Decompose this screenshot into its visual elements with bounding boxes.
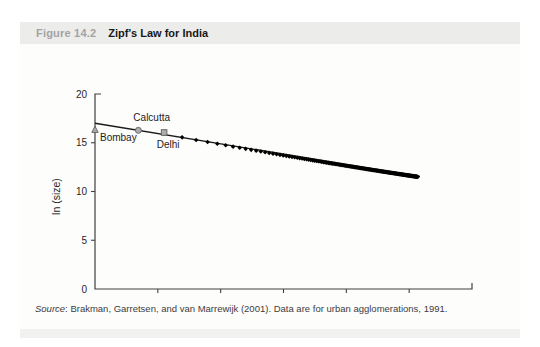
source-prefix: Source [35,303,65,314]
chart-area: 051015200123456ln (size)ln (rank)BombayC… [20,44,520,294]
source-note: Source: Brakman, Garretsen, and van Marr… [35,303,505,315]
y-tick-label: 5 [81,235,87,246]
data-point [194,138,199,143]
data-point [215,141,220,146]
figure-number-label: Figure 14.2 [36,27,96,39]
y-tick-label: 10 [76,186,88,197]
city-marker-triangle [92,126,98,132]
data-point [205,140,210,145]
figure-footer-strip [20,329,520,338]
page: { "header": { "figure_label": "Figure 14… [0,0,540,347]
figure-card: Figure 14.2 Zipf's Law for India 0510152… [20,22,520,338]
city-marker-square [161,130,167,136]
city-label: Bombay [100,132,137,143]
y-tick-label: 20 [76,89,88,100]
y-axis-label: ln (size) [50,178,62,215]
data-point [223,143,228,148]
city-marker-circle [135,127,141,133]
zipf-chart: 051015200123456ln (size)ln (rank)BombayC… [20,44,520,294]
y-tick-label: 0 [81,284,87,295]
y-tick-label: 15 [76,137,88,148]
figure-header: Figure 14.2 Zipf's Law for India [20,22,520,44]
data-point [180,135,185,140]
figure-title: Zipf's Law for India [108,27,208,39]
city-label: Delhi [157,139,180,150]
city-label: Calcutta [133,112,170,123]
source-text: : Brakman, Garretsen, and van Marrewijk … [65,303,447,314]
